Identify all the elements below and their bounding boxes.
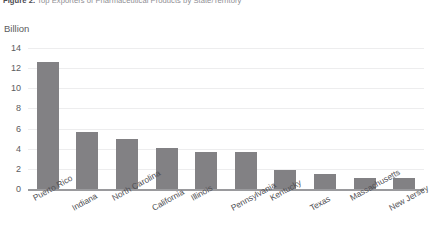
figure-number: Figure 2. bbox=[3, 0, 35, 5]
y-axis-tick-label: 2 bbox=[16, 164, 21, 174]
y-axis-tick-labels: 02468101214 bbox=[0, 48, 24, 189]
bar bbox=[76, 132, 98, 189]
y-axis-unit-label: Billion bbox=[4, 23, 29, 34]
y-axis-tick-label: 10 bbox=[11, 83, 21, 93]
figure-title: Figure 2. Top Exporters of Pharmaceutica… bbox=[3, 0, 241, 5]
figure-container: Figure 2. Top Exporters of Pharmaceutica… bbox=[0, 0, 431, 240]
y-axis-tick-label: 14 bbox=[11, 43, 21, 53]
x-axis-category-label: Texas bbox=[308, 193, 332, 212]
figure-caption: Top Exporters of Pharmaceutical Products… bbox=[37, 0, 241, 5]
x-axis-category-labels: Puerto RicoIndianaNorth CarolinaCaliforn… bbox=[0, 192, 431, 240]
bar-series bbox=[28, 48, 424, 189]
bar bbox=[156, 148, 178, 189]
x-axis-category-label: Indiana bbox=[70, 191, 99, 213]
bar bbox=[37, 62, 59, 189]
plot-area bbox=[28, 48, 424, 189]
bar bbox=[235, 152, 257, 189]
bar bbox=[314, 174, 336, 189]
y-axis-tick-label: 8 bbox=[16, 103, 21, 113]
x-axis-category-label: California bbox=[150, 187, 186, 213]
y-axis-tick-label: 12 bbox=[11, 63, 21, 73]
y-axis-tick-label: 6 bbox=[16, 124, 21, 134]
bar bbox=[393, 178, 415, 189]
y-axis-tick-label: 4 bbox=[16, 144, 21, 154]
